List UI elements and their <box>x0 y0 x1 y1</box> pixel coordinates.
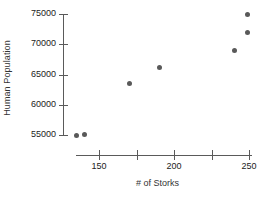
x-axis-tick <box>174 150 175 160</box>
y-axis-tick <box>59 135 68 136</box>
x-axis-tick <box>212 150 213 160</box>
y-axis-tick-label: 55000 <box>12 129 56 139</box>
x-axis-tick-label: 250 <box>229 161 266 171</box>
y-axis-tick <box>59 44 68 45</box>
y-axis-tick <box>59 75 68 76</box>
x-axis-tick <box>137 150 138 160</box>
y-axis-tick-label: 60000 <box>12 99 56 109</box>
plot-area: 5500060000650007000075000150200250 <box>0 0 266 198</box>
y-axis-tick-label: 75000 <box>12 8 56 18</box>
data-point <box>245 12 250 17</box>
x-axis-label: # of Storks <box>60 178 255 188</box>
y-axis-tick <box>59 14 68 15</box>
y-axis-tick-label: 70000 <box>12 38 56 48</box>
x-axis-spine <box>76 155 252 156</box>
data-point <box>74 133 79 138</box>
x-axis-tick-label: 200 <box>154 161 194 171</box>
x-axis-tick <box>99 150 100 160</box>
data-point <box>127 81 132 86</box>
data-point <box>232 48 237 53</box>
scatter-chart: Human Population 55000600006500070000750… <box>0 0 266 198</box>
y-axis-tick-label: 65000 <box>12 69 56 79</box>
data-point <box>245 30 250 35</box>
data-point <box>82 132 87 137</box>
x-axis-tick <box>249 150 250 160</box>
x-axis-tick-label: 150 <box>79 161 119 171</box>
data-point <box>157 65 162 70</box>
y-axis-tick <box>59 105 68 106</box>
